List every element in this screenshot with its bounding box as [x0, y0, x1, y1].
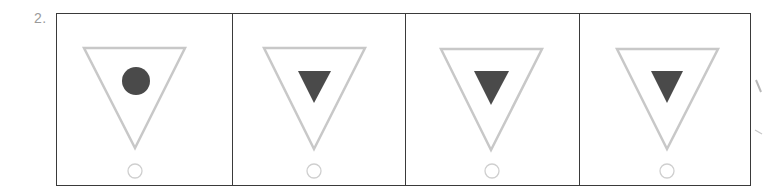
question-number: 2. [34, 10, 47, 26]
small-circle-icon [660, 164, 674, 178]
small-circle-icon [485, 164, 499, 178]
panel-2-figure [233, 14, 406, 186]
option-panel-2[interactable] [232, 14, 405, 185]
scan-artifact [752, 78, 768, 138]
panel-1-figure [57, 14, 232, 186]
panel-3-figure [406, 14, 580, 186]
small-circle-icon [128, 164, 142, 178]
filled-triangle-icon [298, 71, 331, 103]
option-panel-4[interactable] [579, 14, 749, 185]
answer-options-strip [56, 13, 751, 186]
option-panel-3[interactable] [405, 14, 579, 185]
option-panel-1[interactable] [57, 14, 232, 185]
outer-triangle-icon [84, 48, 185, 148]
filled-triangle-icon [651, 71, 683, 103]
panel-4-figure [580, 14, 750, 186]
filled-circle-icon [122, 67, 150, 95]
filled-triangle-icon [474, 71, 509, 105]
small-circle-icon [307, 164, 321, 178]
